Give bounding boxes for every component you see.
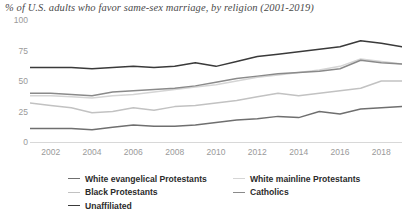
x-tick-label: 2010: [207, 147, 226, 157]
chart-title: % of U.S. adults who favor same-sex marr…: [5, 2, 314, 13]
line-series-group: [30, 20, 402, 142]
x-tick-label: 2008: [165, 147, 184, 157]
legend-line-swatch: [68, 205, 80, 206]
x-tick-label: 2016: [331, 147, 350, 157]
x-axis: 200220042006200820102012201420162018: [30, 145, 402, 159]
legend-item[interactable]: White evangelical Protestants: [68, 172, 233, 186]
legend-item-label: White mainline Protestants: [250, 174, 360, 184]
legend-item-label: Catholics: [250, 187, 289, 197]
legend-item[interactable]: Catholics: [233, 186, 398, 200]
series-line: [30, 107, 402, 130]
chart-container: % of U.S. adults who favor same-sex marr…: [0, 0, 407, 215]
legend-item-label: Unaffiliated: [85, 201, 132, 211]
y-tick-label: 0: [4, 137, 28, 147]
y-tick-label: 75: [4, 46, 28, 56]
series-line: [30, 81, 402, 113]
legend-line-swatch: [68, 178, 80, 179]
legend-line-swatch: [68, 192, 80, 193]
chart-legend: White evangelical ProtestantsWhite mainl…: [68, 172, 398, 213]
plot-area: [30, 20, 402, 142]
y-tick-label: 100: [4, 15, 28, 25]
y-tick-label: 25: [4, 107, 28, 117]
x-tick-label: 2002: [41, 147, 60, 157]
legend-item-label: Black Protestants: [85, 187, 158, 197]
x-tick-label: 2012: [248, 147, 267, 157]
x-tick-label: 2006: [124, 147, 143, 157]
y-tick-label: 50: [4, 76, 28, 86]
legend-line-swatch: [233, 192, 245, 193]
y-axis: 0255075100: [0, 20, 28, 142]
legend-line-swatch: [233, 178, 245, 179]
x-tick-label: 2018: [372, 147, 391, 157]
legend-item[interactable]: Black Protestants: [68, 186, 233, 200]
series-line: [30, 59, 402, 98]
legend-item[interactable]: White mainline Protestants: [233, 172, 398, 186]
x-axis-baseline: [30, 142, 402, 143]
x-tick-label: 2014: [289, 147, 308, 157]
legend-item-label: White evangelical Protestants: [85, 174, 207, 184]
x-tick-label: 2004: [83, 147, 102, 157]
legend-item[interactable]: Unaffiliated: [68, 199, 233, 213]
